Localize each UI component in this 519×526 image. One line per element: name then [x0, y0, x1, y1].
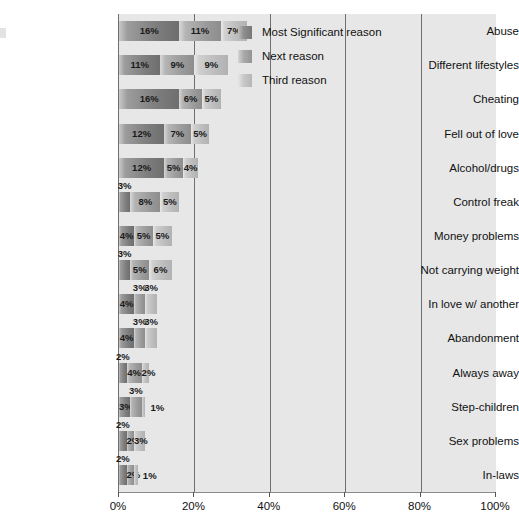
bar-value-label: 2% — [127, 431, 135, 451]
bar-value-label: 7% — [164, 124, 190, 144]
bar-segment-1[interactable] — [130, 397, 141, 417]
bar-segment-2[interactable] — [134, 465, 138, 485]
bar-value-label: 11% — [179, 21, 220, 41]
bar-value-label: 2% — [116, 419, 130, 430]
bar-value-label: 5% — [153, 226, 172, 246]
bar-segment-1[interactable] — [134, 294, 145, 314]
bar-value-label: 16% — [119, 89, 179, 109]
bar-value-label: 5% — [134, 226, 153, 246]
bar-value-label: 8% — [130, 192, 160, 212]
series-2-swatch — [238, 74, 252, 87]
x-tick-20 — [193, 492, 194, 497]
bar-value-label: 3% — [134, 431, 145, 451]
series-1-swatch — [238, 50, 252, 63]
bar-value-label: 1% — [143, 470, 157, 481]
page-edge-artifact — [0, 28, 6, 38]
x-tick-label-20: 20% — [182, 500, 205, 512]
bar-value-label: 6% — [149, 260, 172, 280]
bar-segment-2[interactable] — [145, 328, 156, 348]
bar-value-label: 9% — [160, 55, 194, 75]
bar-value-label: 2% — [116, 453, 130, 464]
bar-value-label: 2% — [127, 465, 135, 485]
bar-value-label: 4% — [119, 328, 134, 348]
legend-item-1[interactable]: Next reason — [238, 44, 382, 68]
x-tick-80 — [420, 492, 421, 497]
bar-value-label: 5% — [202, 89, 221, 109]
x-tick-label-60: 60% — [333, 500, 356, 512]
bar-value-label: 12% — [119, 124, 164, 144]
bar-value-label: 1% — [150, 402, 164, 413]
bar-value-label: 5% — [164, 158, 183, 178]
bar-value-label: 12% — [119, 158, 164, 178]
bar-segment-0[interactable] — [119, 465, 127, 485]
bar-value-label: 5% — [130, 260, 149, 280]
x-tick-0 — [118, 492, 119, 497]
chart-legend: Most Significant reasonNext reasonThird … — [238, 20, 382, 92]
category-label-6: Money problems — [407, 230, 519, 242]
bar-value-label: 9% — [194, 55, 228, 75]
bar-segment-2[interactable] — [145, 294, 156, 314]
bar-value-label: 3% — [144, 316, 158, 327]
bar-value-label: 4% — [119, 226, 134, 246]
bar-value-label: 3% — [129, 385, 143, 396]
bar-segment-0[interactable] — [119, 363, 127, 383]
category-label-9: Abandonment — [407, 332, 519, 344]
legend-label-0: Most Significant reason — [262, 26, 382, 38]
x-tick-40 — [269, 492, 270, 497]
bar-value-label: 6% — [179, 89, 202, 109]
bar-segment-0[interactable] — [119, 260, 130, 280]
x-tick-label-80: 80% — [408, 500, 431, 512]
bar-value-label: 16% — [119, 21, 179, 41]
category-label-7: Not carrying weight — [407, 264, 519, 276]
bar-value-label: 3% — [144, 282, 158, 293]
category-label-11: Step-children — [407, 401, 519, 413]
x-tick-label-0: 0% — [110, 500, 127, 512]
legend-label-2: Third reason — [262, 74, 327, 86]
bar-value-label: 3% — [118, 180, 132, 191]
x-tick-label-100: 100% — [480, 500, 509, 512]
legend-label-1: Next reason — [262, 50, 324, 62]
category-label-12: Sex problems — [407, 435, 519, 447]
x-tick-60 — [344, 492, 345, 497]
bar-segment-2[interactable] — [142, 397, 146, 417]
x-axis-line — [118, 492, 496, 493]
gridline-80 — [421, 14, 422, 492]
category-label-1: Different lifestyles — [407, 59, 519, 71]
series-0-swatch — [238, 26, 252, 39]
bar-segment-0[interactable] — [119, 431, 127, 451]
bar-value-label: 11% — [119, 55, 160, 75]
bar-value-label: 2% — [116, 351, 130, 362]
gridline-20 — [194, 14, 195, 492]
bar-value-label: 3% — [118, 248, 132, 259]
bar-value-label: 2% — [142, 363, 150, 383]
x-tick-label-40: 40% — [257, 500, 280, 512]
bar-value-label: 3% — [119, 397, 130, 417]
category-label-13: In-laws — [407, 469, 519, 481]
category-label-0: Abuse — [407, 25, 519, 37]
bar-segment-1[interactable] — [134, 328, 145, 348]
bar-value-label: 4% — [183, 158, 198, 178]
category-label-10: Always away — [407, 367, 519, 379]
bar-value-label: 4% — [127, 363, 142, 383]
bar-value-label: 5% — [191, 124, 210, 144]
stacked-bar-chart: 16%11%7%11%9%9%16%6%5%12%7%5%12%5%4%3%8%… — [0, 0, 519, 526]
legend-item-2[interactable]: Third reason — [238, 68, 382, 92]
category-label-3: Fell out of love — [407, 128, 519, 140]
legend-item-0[interactable]: Most Significant reason — [238, 20, 382, 44]
bar-value-label: 5% — [160, 192, 179, 212]
category-label-2: Cheating — [407, 93, 519, 105]
x-tick-100 — [495, 492, 496, 497]
bar-value-label: 4% — [119, 294, 134, 314]
category-label-5: Control freak — [407, 196, 519, 208]
category-label-4: Alcohol/drugs — [407, 162, 519, 174]
category-label-8: In love w/ another — [407, 298, 519, 310]
bar-segment-0[interactable] — [119, 192, 130, 212]
